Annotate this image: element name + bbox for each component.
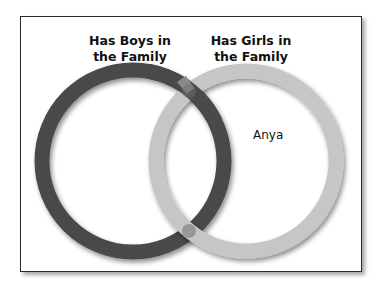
girls-label-line2: the Family	[186, 49, 316, 65]
boys-set-label: Has Boys in the Family	[65, 33, 195, 65]
boys-label-line2: the Family	[65, 49, 195, 65]
girls-label-line1: Has Girls in	[186, 33, 316, 49]
girls-set-ring	[156, 71, 336, 251]
boys-label-line1: Has Boys in	[65, 33, 195, 49]
item-anya: Anya	[253, 128, 283, 142]
girls-set-label: Has Girls in the Family	[186, 33, 316, 65]
